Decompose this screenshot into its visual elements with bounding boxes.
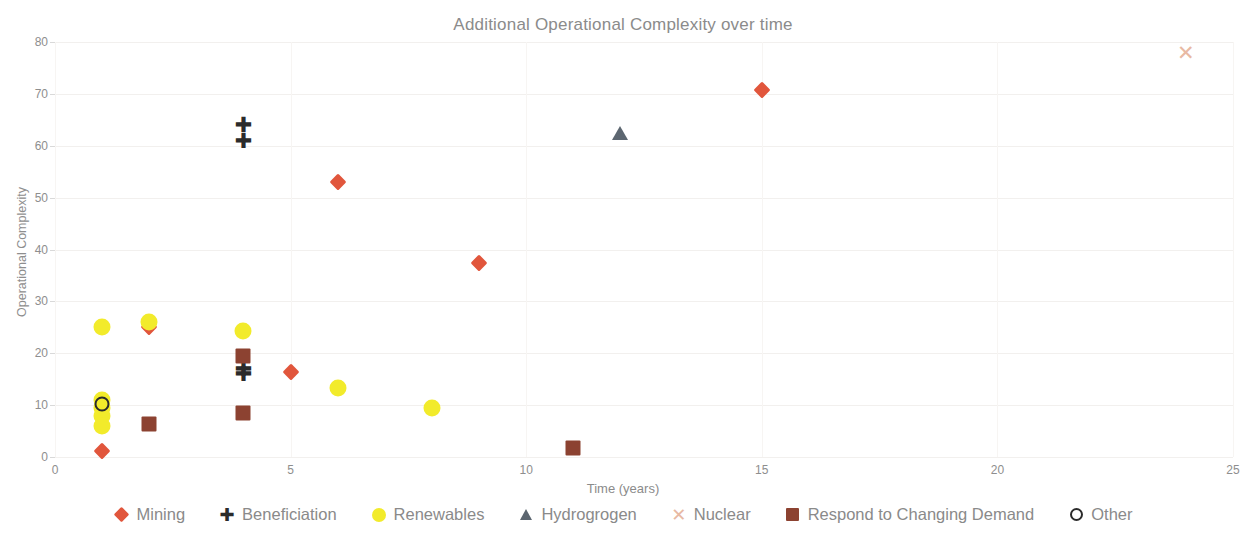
legend-label: Mining xyxy=(136,505,185,524)
gridline-horizontal xyxy=(55,42,1233,43)
gridline-horizontal xyxy=(55,457,1233,458)
cross-icon: ✕ xyxy=(671,507,687,523)
gridline-vertical xyxy=(55,42,56,457)
legend-item-beneficiation[interactable]: ✚Beneficiation xyxy=(219,505,336,524)
chart-title: Additional Operational Complexity over t… xyxy=(0,15,1246,35)
legend-label: Beneficiation xyxy=(242,505,336,524)
gridline-horizontal xyxy=(55,198,1233,199)
data-point-other[interactable] xyxy=(95,397,110,412)
x-axis-tick-label: 0 xyxy=(35,463,75,477)
gridline-horizontal xyxy=(55,250,1233,251)
y-axis-tick-mark xyxy=(50,353,55,354)
gridline-vertical xyxy=(1233,42,1234,457)
legend-item-other[interactable]: Other xyxy=(1068,505,1132,524)
chart-legend: Mining✚BeneficiationRenewablesHydrogroge… xyxy=(0,505,1246,524)
data-point-mining[interactable] xyxy=(471,254,488,271)
x-axis-tick-label: 5 xyxy=(271,463,311,477)
legend-swatch-shape xyxy=(114,507,130,523)
gridline-horizontal xyxy=(55,353,1233,354)
legend-item-hydrogrogen[interactable]: Hydrogrogen xyxy=(518,505,636,524)
data-point-renewables[interactable] xyxy=(423,399,440,416)
y-axis-tick-mark xyxy=(50,457,55,458)
y-axis-tick-label: 30 xyxy=(8,294,48,308)
legend-swatch-shape xyxy=(520,509,532,520)
y-axis-tick-label: 10 xyxy=(8,398,48,412)
legend-label: Respond to Changing Demand xyxy=(808,505,1035,524)
data-point-respond-to-changing-demand[interactable] xyxy=(142,416,157,431)
y-axis-tick-mark xyxy=(50,94,55,95)
data-point-respond-to-changing-demand[interactable] xyxy=(236,405,251,420)
legend-label: Renewables xyxy=(394,505,485,524)
legend-item-nuclear[interactable]: ✕Nuclear xyxy=(671,505,751,524)
legend-swatch-shape xyxy=(786,508,799,521)
gridline-horizontal xyxy=(55,94,1233,95)
data-point-mining[interactable] xyxy=(753,82,770,99)
gridline-vertical xyxy=(997,42,998,457)
y-axis-tick-label: 80 xyxy=(8,35,48,49)
data-point-beneficiation[interactable]: ✚ xyxy=(235,368,253,381)
data-point-renewables[interactable] xyxy=(141,314,158,331)
legend-swatch-shape xyxy=(1070,508,1083,521)
legend-swatch-shape xyxy=(372,508,386,522)
gridline-horizontal xyxy=(55,405,1233,406)
data-point-mining[interactable] xyxy=(329,174,346,191)
y-axis-tick-label: 0 xyxy=(8,450,48,464)
y-axis-tick-mark xyxy=(50,42,55,43)
gridline-horizontal xyxy=(55,301,1233,302)
data-point-renewables[interactable] xyxy=(235,323,252,340)
scatter-chart: Additional Operational Complexity over t… xyxy=(0,0,1246,546)
x-axis-tick-label: 10 xyxy=(506,463,546,477)
y-axis-tick-mark xyxy=(50,250,55,251)
y-axis-tick-mark xyxy=(50,405,55,406)
legend-item-respond-to-changing-demand[interactable]: Respond to Changing Demand xyxy=(785,505,1035,524)
x-axis-tick-label: 15 xyxy=(742,463,782,477)
plus-icon: ✚ xyxy=(219,507,235,523)
legend-item-renewables[interactable]: Renewables xyxy=(371,505,485,524)
circle-icon xyxy=(371,507,387,523)
data-point-mining[interactable] xyxy=(282,364,299,381)
gridline-vertical xyxy=(762,42,763,457)
square-icon xyxy=(785,507,801,523)
data-point-beneficiation[interactable]: ✚ xyxy=(235,134,253,147)
gridline-horizontal xyxy=(55,146,1233,147)
x-axis-tick-label: 20 xyxy=(977,463,1017,477)
y-axis-tick-label: 40 xyxy=(8,243,48,257)
y-axis-tick-label: 50 xyxy=(8,191,48,205)
y-axis-tick-mark xyxy=(50,301,55,302)
y-axis-tick-mark xyxy=(50,198,55,199)
legend-item-mining[interactable]: Mining xyxy=(113,505,185,524)
data-point-nuclear[interactable]: ✕ xyxy=(1177,47,1195,60)
data-point-renewables[interactable] xyxy=(329,380,346,397)
data-point-renewables[interactable] xyxy=(94,417,111,434)
gridline-vertical xyxy=(526,42,527,457)
legend-swatch-shape: ✚ xyxy=(220,507,235,523)
data-point-hydrogrogen[interactable] xyxy=(612,126,628,140)
gridline-vertical xyxy=(291,42,292,457)
x-axis-tick-label: 25 xyxy=(1213,463,1246,477)
legend-label: Other xyxy=(1091,505,1132,524)
legend-label: Hydrogrogen xyxy=(541,505,636,524)
legend-label: Nuclear xyxy=(694,505,751,524)
y-axis-tick-label: 20 xyxy=(8,346,48,360)
legend-swatch-shape: ✕ xyxy=(671,507,686,523)
diamond-icon xyxy=(113,507,129,523)
ring-icon xyxy=(1068,507,1084,523)
plot-area: ✚✚✚✚✕ xyxy=(55,42,1233,457)
y-axis-tick-mark xyxy=(50,146,55,147)
y-axis-tick-label: 70 xyxy=(8,87,48,101)
x-axis-title: Time (years) xyxy=(0,481,1246,496)
triangle-icon xyxy=(518,507,534,523)
data-point-respond-to-changing-demand[interactable] xyxy=(566,441,581,456)
data-point-renewables[interactable] xyxy=(94,319,111,336)
data-point-respond-to-changing-demand[interactable] xyxy=(236,348,251,363)
y-axis-tick-label: 60 xyxy=(8,139,48,153)
